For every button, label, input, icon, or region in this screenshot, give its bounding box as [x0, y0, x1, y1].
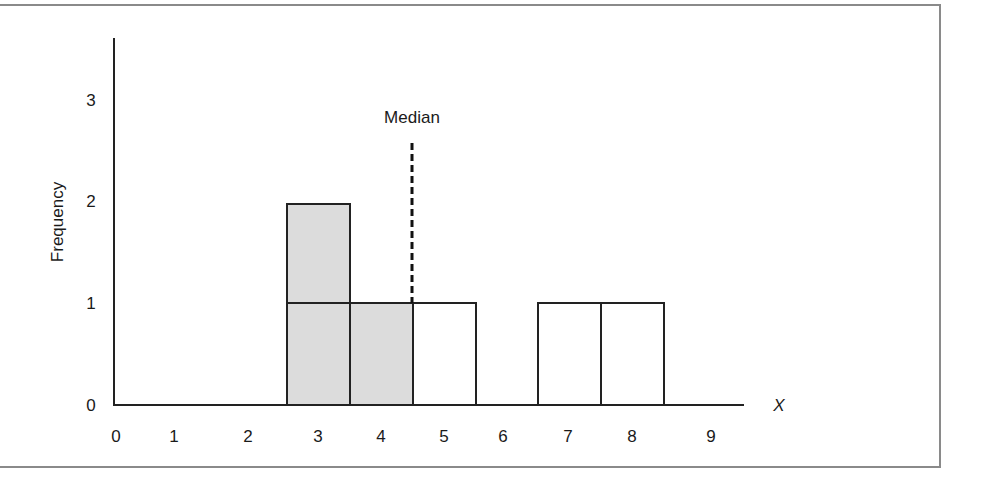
x-tick-0: 0 — [111, 427, 120, 446]
x-tick-6: 6 — [498, 427, 507, 446]
bars — [287, 204, 664, 405]
bar-3 — [287, 204, 350, 405]
x-tick-9: 9 — [706, 427, 715, 446]
y-axis-label: Frequency — [48, 181, 67, 262]
x-tick-1: 1 — [169, 427, 178, 446]
x-tick-8: 8 — [627, 427, 636, 446]
y-tick-3: 3 — [86, 91, 95, 110]
y-tick-0: 0 — [86, 396, 95, 415]
x-tick-labels: 0 1 2 3 4 5 6 7 8 9 — [111, 427, 715, 446]
x-tick-3: 3 — [313, 427, 322, 446]
y-tick-labels: 0 1 2 3 — [86, 91, 95, 415]
median-label: Median — [384, 108, 440, 127]
x-tick-4: 4 — [376, 427, 385, 446]
bar-8 — [601, 303, 664, 405]
bar-7 — [538, 303, 601, 405]
y-tick-2: 2 — [86, 192, 95, 211]
y-tick-1: 1 — [86, 294, 95, 313]
x-axis-label: X — [772, 396, 785, 415]
x-tick-7: 7 — [563, 427, 572, 446]
bar-5 — [413, 303, 476, 405]
histogram-chart: Median 0 1 2 3 Frequency 0 1 2 3 4 5 6 7… — [0, 0, 981, 480]
x-tick-5: 5 — [439, 427, 448, 446]
bar-4 — [350, 303, 413, 405]
x-tick-2: 2 — [243, 427, 252, 446]
